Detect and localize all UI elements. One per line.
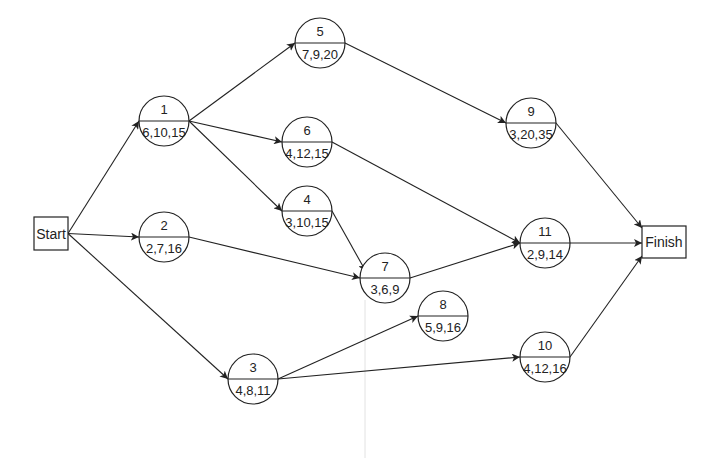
- node-id-label: 9: [527, 104, 534, 119]
- activity-node-11[interactable]: 112,9,14: [520, 218, 570, 268]
- node-time-estimates: 4,12,15: [285, 146, 328, 161]
- node-time-estimates: 4,8,11: [235, 383, 270, 398]
- activity-node-6[interactable]: 64,12,15: [282, 117, 332, 167]
- edges-layer: [68, 43, 642, 379]
- activity-node-5[interactable]: 57,9,20: [295, 18, 345, 68]
- node-id-label: 8: [439, 297, 446, 312]
- node-id-label: 1: [160, 102, 167, 117]
- edge-arrow-10-to-finish: [570, 256, 642, 357]
- edge-arrow-3-to-8: [278, 316, 418, 379]
- activity-node-4[interactable]: 43,10,15: [282, 186, 332, 236]
- node-time-estimates: 5,9,16: [425, 320, 461, 335]
- node-time-estimates: 3,6,9: [371, 282, 400, 297]
- node-id-label: 5: [316, 24, 323, 39]
- terminals-layer: StartFinish: [34, 217, 686, 258]
- start-label: Start: [36, 226, 66, 242]
- node-time-estimates: 6,10,15: [142, 125, 185, 140]
- edge-arrow-1-to-5: [189, 43, 295, 121]
- edge-arrow-start-to-1: [68, 121, 139, 234]
- edge-arrow-9-to-finish: [556, 123, 642, 228]
- edge-arrow-start-to-2: [68, 234, 139, 238]
- node-time-estimates: 4,12,16: [523, 361, 566, 376]
- edge-arrow-2-to-7: [189, 237, 360, 278]
- start-node[interactable]: Start: [34, 217, 68, 250]
- finish-label: Finish: [645, 234, 682, 250]
- node-id-label: 7: [381, 259, 388, 274]
- activity-node-3[interactable]: 34,8,11: [228, 354, 278, 404]
- nodes-layer: 16,10,1522,7,1634,8,1143,10,1557,9,2064,…: [139, 18, 570, 404]
- activity-node-8[interactable]: 85,9,16: [418, 291, 468, 341]
- node-time-estimates: 2,7,16: [146, 241, 182, 256]
- node-time-estimates: 2,9,14: [527, 247, 563, 262]
- edge-arrow-1-to-4: [189, 121, 282, 211]
- node-time-estimates: 3,10,15: [285, 215, 328, 230]
- activity-node-9[interactable]: 93,20,35: [506, 98, 556, 148]
- edge-arrow-7-to-11: [410, 243, 520, 278]
- edge-arrow-4-to-7: [332, 211, 366, 271]
- edge-arrow-6-to-11: [332, 142, 520, 243]
- activity-node-7[interactable]: 73,6,9: [360, 253, 410, 303]
- edge-arrow-1-to-6: [189, 121, 282, 142]
- node-id-label: 2: [160, 218, 167, 233]
- activity-node-10[interactable]: 104,12,16: [520, 332, 570, 382]
- activity-node-2[interactable]: 22,7,16: [139, 212, 189, 262]
- node-id-label: 4: [303, 192, 310, 207]
- pert-network-diagram: 16,10,1522,7,1634,8,1143,10,1557,9,2064,…: [0, 0, 721, 468]
- node-id-label: 10: [538, 338, 552, 353]
- activity-node-1[interactable]: 16,10,15: [139, 96, 189, 146]
- node-id-label: 11: [538, 224, 552, 239]
- edge-arrow-3-to-10: [278, 357, 520, 379]
- edge-arrow-5-to-9: [345, 43, 506, 123]
- node-id-label: 3: [249, 360, 256, 375]
- node-id-label: 6: [303, 123, 310, 138]
- finish-node[interactable]: Finish: [642, 226, 686, 258]
- node-time-estimates: 3,20,35: [509, 127, 552, 142]
- node-time-estimates: 7,9,20: [302, 47, 338, 62]
